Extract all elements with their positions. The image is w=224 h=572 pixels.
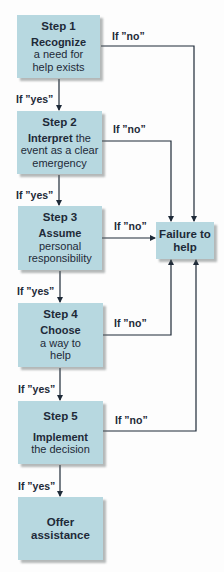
step-2-box: Step 2 Interpret the event as a clear em… (17, 111, 102, 174)
no-label-5: If ”no” (115, 414, 148, 426)
step-2-text: Interpret the event as a clear emergency (21, 132, 99, 170)
step-1-keyword: Recognize (31, 36, 86, 48)
step-5-line-1: the decision (31, 443, 90, 455)
step-1-text: Recognize a need for help exists (31, 36, 86, 74)
step-4-box: Step 4 Choose a way to help (18, 303, 103, 367)
step-3-line-2: responsibility (28, 252, 92, 264)
no-label-3: If ”no” (114, 220, 147, 232)
step-3-keyword: Assume (39, 227, 82, 239)
step-4-text: Choose a way to help (40, 324, 81, 362)
step-2-keyword-suffix: the (73, 132, 91, 144)
step-3-number: Step 3 (43, 211, 78, 224)
yes-label-1: If ”yes” (16, 93, 53, 105)
step-5-text: Implement the decision (31, 431, 90, 456)
yes-label-2: If ”yes” (16, 189, 53, 201)
step-4-line-2: help (50, 349, 71, 361)
failure-to-help-box: Failure to help (156, 222, 214, 259)
step-2-keyword: Interpret (28, 132, 73, 144)
step-2-number: Step 2 (42, 116, 77, 129)
step-5-box: Step 5 Implement the decision (18, 401, 103, 464)
no-label-4: If ”no” (114, 317, 147, 329)
no-label-2: If ”no” (113, 123, 146, 135)
offer-assistance-box: Offer assistance (18, 497, 103, 560)
offer-assistance-line-2: assistance (31, 529, 90, 542)
no-line-step2 (102, 141, 171, 221)
step-5-number: Step 5 (43, 410, 78, 423)
step-1-line-2: help exists (33, 61, 85, 73)
step-1-line-1: a need for (34, 48, 84, 60)
step-2-line-1: event as a clear (21, 144, 99, 156)
no-line-step5 (103, 260, 196, 431)
step-4-number: Step 4 (43, 308, 78, 321)
yes-label-5: If ”yes” (18, 480, 55, 492)
step-3-text: Assume personal responsibility (28, 227, 92, 265)
failure-line-2: help (173, 241, 197, 254)
step-2-line-2: emergency (32, 157, 86, 169)
yes-label-4: If ”yes” (18, 383, 55, 395)
yes-label-3: If ”yes” (17, 285, 54, 297)
step-1-box: Step 1 Recognize a need for help exists (17, 15, 100, 78)
step-4-line-1: a way to (40, 337, 81, 349)
step-3-line-1: personal (39, 240, 81, 252)
step-5-keyword: Implement (33, 431, 88, 443)
step-1-number: Step 1 (41, 20, 76, 33)
step-4-keyword: Choose (40, 324, 80, 336)
step-3-box: Step 3 Assume personal responsibility (18, 206, 102, 270)
offer-assistance-line-1: Offer (47, 516, 74, 529)
failure-line-1: Failure to (159, 228, 211, 241)
no-label-1: If ”no” (112, 30, 145, 42)
